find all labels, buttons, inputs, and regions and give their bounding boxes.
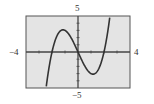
y-max-label: 5 [75, 4, 80, 13]
x-min-label: −4 [9, 48, 19, 57]
y-min-label: −5 [72, 91, 82, 100]
graph-plot [0, 0, 154, 104]
x-max-label: 4 [134, 48, 139, 57]
